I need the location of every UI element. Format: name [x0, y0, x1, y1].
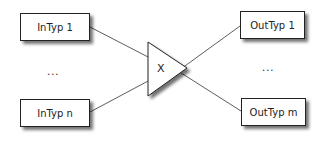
output-ellipsis: ... — [262, 62, 275, 73]
input-box-n: InTyp n — [20, 99, 90, 127]
output-label: OutTyp 1 — [250, 20, 295, 31]
input-box-1: InTyp 1 — [20, 13, 90, 41]
operator-label: X — [157, 62, 165, 75]
output-label: OutTyp m — [250, 107, 298, 118]
output-box-m: OutTyp m — [241, 98, 306, 126]
input-label: InTyp 1 — [37, 22, 73, 33]
input-label: InTyp n — [37, 108, 73, 119]
input-ellipsis: ... — [47, 66, 60, 77]
operator-triangle — [148, 42, 187, 96]
output-box-1: OutTyp 1 — [240, 11, 305, 39]
